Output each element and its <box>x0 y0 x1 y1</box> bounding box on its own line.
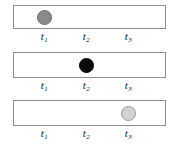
track-rectangle-3 <box>13 100 166 126</box>
tick-label-t3: t3 <box>125 79 132 94</box>
ball-marker-t1 <box>37 10 52 25</box>
tick-label-t2: t2 <box>83 127 90 142</box>
track-rectangle-2 <box>13 52 166 78</box>
time-sequence-diagram: t1 t2 t3 t1 t2 t3 t1 t2 t3 <box>0 0 173 146</box>
ball-marker-t3 <box>121 106 136 121</box>
tick-label-t1: t1 <box>41 127 48 142</box>
tick-label-row-1: t1 t2 t3 <box>13 30 166 46</box>
track-rectangle-1 <box>13 5 166 29</box>
tick-label-t3: t3 <box>125 30 132 45</box>
tick-label-t2: t2 <box>83 30 90 45</box>
tick-label-t1: t1 <box>41 79 48 94</box>
tick-label-t2: t2 <box>83 79 90 94</box>
tick-label-t3: t3 <box>125 127 132 142</box>
ball-marker-t2 <box>79 58 94 73</box>
tick-label-t1: t1 <box>41 30 48 45</box>
tick-label-row-2: t1 t2 t3 <box>13 79 166 95</box>
tick-label-row-3: t1 t2 t3 <box>13 127 166 143</box>
